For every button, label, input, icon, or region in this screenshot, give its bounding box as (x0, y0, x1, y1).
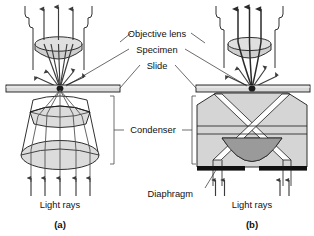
figure-root: Light rays (a) (0, 0, 314, 236)
objective-lens-label: Objective lens (128, 29, 187, 39)
panel-caption-b: (b) (246, 219, 258, 230)
light-rays-label-a: Light rays (40, 200, 81, 210)
condenser-label: Condenser (130, 125, 175, 135)
microscopy-condenser-diagram: Light rays (a) (0, 0, 314, 236)
slide-label: Slide (147, 61, 168, 71)
specimen-label: Specimen (136, 45, 177, 55)
light-rays-label-b: Light rays (232, 200, 273, 210)
darkfield-condenser-body-b (197, 93, 307, 167)
diaphragm-label: Diaphragm (148, 189, 194, 199)
specimen-b (249, 85, 256, 91)
panel-caption-a: (a) (54, 219, 66, 230)
